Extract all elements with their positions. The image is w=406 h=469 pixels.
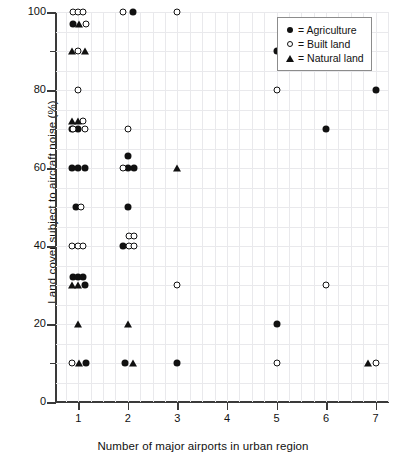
grid-line-horizontal bbox=[56, 305, 388, 306]
data-point-built-land bbox=[70, 126, 77, 133]
data-point-agriculture bbox=[81, 165, 88, 172]
data-point-built-land bbox=[131, 243, 138, 250]
x-axis-tick-label: 1 bbox=[68, 412, 88, 424]
grid-line-horizontal bbox=[56, 383, 388, 384]
data-point-agriculture bbox=[122, 360, 129, 367]
legend: = Agriculture = Built land = Natural lan… bbox=[277, 17, 372, 71]
y-axis-tick bbox=[47, 402, 56, 404]
data-point-natural-land bbox=[74, 118, 82, 125]
y-axis-tick bbox=[47, 90, 56, 92]
open-circle-icon bbox=[284, 41, 296, 47]
grid-line-horizontal bbox=[56, 246, 388, 247]
legend-label-built-land: = Built land bbox=[298, 38, 350, 50]
data-point-built-land bbox=[372, 360, 379, 367]
y-axis-tick bbox=[47, 168, 56, 170]
grid-line-horizontal bbox=[56, 324, 388, 325]
data-point-natural-land bbox=[364, 360, 372, 367]
x-axis-tick-label: 6 bbox=[316, 412, 336, 424]
grid-line-horizontal bbox=[56, 344, 388, 345]
data-point-built-land bbox=[119, 165, 126, 172]
x-axis-tick-label: 4 bbox=[217, 412, 237, 424]
y-axis-tick bbox=[47, 12, 56, 14]
grid-line-horizontal bbox=[56, 207, 388, 208]
data-point-built-land bbox=[174, 9, 181, 16]
data-point-built-land bbox=[80, 9, 87, 16]
grid-line-horizontal bbox=[56, 188, 388, 189]
data-point-natural-land bbox=[173, 165, 181, 172]
legend-item-natural-land: = Natural land bbox=[284, 51, 364, 65]
x-axis-tick-label: 2 bbox=[118, 412, 138, 424]
data-point-natural-land bbox=[68, 48, 76, 55]
data-point-built-land bbox=[81, 126, 88, 133]
y-axis-tick bbox=[47, 246, 56, 248]
y-axis-tick-label: 40 bbox=[10, 239, 46, 251]
data-point-agriculture bbox=[129, 9, 136, 16]
grid-line-horizontal bbox=[56, 110, 388, 111]
filled-triangle-icon bbox=[284, 55, 296, 62]
filled-circle-icon bbox=[284, 27, 296, 34]
data-point-agriculture bbox=[124, 204, 131, 211]
data-point-built-land bbox=[130, 233, 137, 240]
grid-line-horizontal bbox=[56, 12, 388, 13]
data-point-agriculture bbox=[273, 321, 280, 328]
grid-line-horizontal bbox=[56, 129, 388, 130]
data-point-built-land bbox=[273, 360, 280, 367]
data-point-natural-land bbox=[75, 20, 83, 27]
grid-line-horizontal bbox=[56, 285, 388, 286]
scatter-chart-figure: Land cover subject to aircraft noise (%)… bbox=[0, 0, 406, 469]
data-point-natural-land bbox=[124, 321, 132, 328]
data-point-agriculture bbox=[124, 153, 131, 160]
data-point-built-land bbox=[174, 282, 181, 289]
data-point-natural-land bbox=[129, 360, 137, 367]
y-axis-tick bbox=[47, 324, 56, 326]
x-axis-tick bbox=[78, 402, 80, 410]
data-point-built-land bbox=[77, 204, 84, 211]
data-point-built-land bbox=[119, 9, 126, 16]
data-point-agriculture bbox=[130, 165, 137, 172]
y-axis-tick-label: 100 bbox=[10, 5, 46, 17]
y-axis-tick-label: 80 bbox=[10, 83, 46, 95]
data-point-agriculture bbox=[174, 360, 181, 367]
data-point-built-land bbox=[323, 282, 330, 289]
legend-item-built-land: = Built land bbox=[284, 37, 364, 51]
data-point-agriculture bbox=[323, 126, 330, 133]
grid-line-horizontal bbox=[56, 149, 388, 150]
x-axis-tick bbox=[128, 402, 130, 410]
x-axis-tick bbox=[376, 402, 378, 410]
x-axis-tick bbox=[277, 402, 279, 410]
grid-line-vertical bbox=[388, 12, 389, 402]
data-point-natural-land bbox=[74, 321, 82, 328]
legend-label-natural-land: = Natural land bbox=[298, 52, 364, 64]
data-point-agriculture bbox=[80, 274, 87, 281]
y-axis-tick-label: 0 bbox=[10, 395, 46, 407]
data-point-natural-land bbox=[81, 48, 89, 55]
legend-label-agriculture: = Agriculture bbox=[298, 24, 357, 36]
data-point-natural-land bbox=[74, 282, 82, 289]
grid-line-horizontal bbox=[56, 227, 388, 228]
grid-line-horizontal bbox=[56, 168, 388, 169]
x-axis-title: Number of major airports in urban region bbox=[0, 440, 406, 452]
data-point-built-land bbox=[273, 87, 280, 94]
grid-line-horizontal bbox=[56, 266, 388, 267]
data-point-agriculture bbox=[372, 87, 379, 94]
legend-item-agriculture: = Agriculture bbox=[284, 23, 364, 37]
x-axis-tick bbox=[227, 402, 229, 410]
y-axis-tick-label: 60 bbox=[10, 161, 46, 173]
data-point-built-land bbox=[75, 87, 82, 94]
grid-line-horizontal bbox=[56, 90, 388, 91]
x-axis-tick-label: 7 bbox=[366, 412, 386, 424]
x-axis-tick-label: 5 bbox=[267, 412, 287, 424]
x-axis-tick-label: 3 bbox=[167, 412, 187, 424]
x-axis-tick bbox=[326, 402, 328, 410]
x-axis-tick bbox=[177, 402, 179, 410]
y-axis-tick-label: 20 bbox=[10, 317, 46, 329]
data-point-built-land bbox=[124, 126, 131, 133]
data-point-natural-land bbox=[75, 360, 83, 367]
data-point-built-land bbox=[80, 243, 87, 250]
grid-line-horizontal bbox=[56, 363, 388, 364]
